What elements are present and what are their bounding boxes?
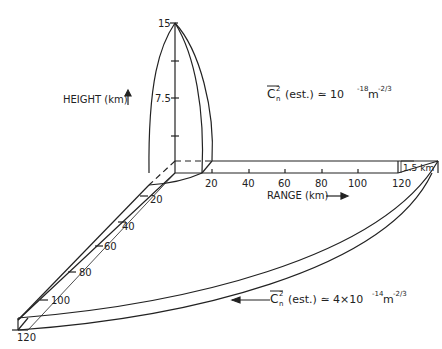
range-tick-label: 120 — [392, 178, 411, 189]
range-axis-label: RANGE (km) — [267, 190, 329, 201]
lobe-base-arc — [149, 173, 202, 185]
svg-text:-18: -18 — [357, 85, 368, 93]
annotation-arrow-head — [232, 297, 240, 303]
depth-tick-label: 100 — [51, 295, 70, 306]
beam-lobe-base-edge — [202, 161, 212, 173]
depth-tick-label: 80 — [79, 267, 92, 278]
depth-axis-front — [18, 185, 149, 320]
range-arc-lower — [18, 173, 432, 330]
range-tick-label: 60 — [278, 178, 291, 189]
dashed-diag-edge — [149, 161, 175, 185]
height-tick-label: 15 — [158, 18, 171, 29]
depth-tick-label: 60 — [104, 241, 117, 252]
svg-text:C: C — [267, 87, 275, 101]
annotation-upper: C 2 n (est.) ≃ 10 -18 m -2/3 — [267, 85, 392, 103]
range-tick-label: 80 — [315, 178, 328, 189]
svg-text:2: 2 — [279, 290, 283, 298]
svg-text:-2/3: -2/3 — [393, 290, 407, 298]
slab-corner-diag — [18, 318, 28, 330]
height-axis-label: HEIGHT (km) — [63, 94, 128, 105]
svg-text:(est.) ≃ 10: (est.) ≃ 10 — [285, 88, 344, 101]
diagram-canvas: 15 7.5 HEIGHT (km) 20 40 60 80 100 120 R… — [0, 0, 442, 349]
beam-lobe-outer — [175, 23, 212, 161]
svg-text:C: C — [270, 292, 278, 306]
height-tick-label: 7.5 — [155, 93, 171, 104]
annotation-lower: C 2 n (est.) ≃ 4×10 -14 m -2/3 — [270, 290, 407, 308]
beam-lobe-inner — [175, 23, 203, 173]
svg-text:(est.) ≃ 4×10: (est.) ≃ 4×10 — [288, 293, 363, 306]
range-arrow-head — [341, 193, 348, 199]
range-tick-label: 40 — [242, 178, 255, 189]
thickness-label: 1.5 km — [403, 163, 434, 173]
svg-text:n: n — [279, 300, 283, 308]
depth-tick-label: 20 — [150, 194, 163, 205]
svg-text:-2/3: -2/3 — [378, 85, 392, 93]
range-tick-label: 100 — [348, 178, 367, 189]
depth-tick-label: 40 — [122, 221, 135, 232]
range-tick-label: 20 — [205, 178, 218, 189]
svg-text:2: 2 — [276, 85, 280, 93]
svg-text:n: n — [276, 95, 280, 103]
depth-tick-label: 120 — [17, 332, 36, 343]
